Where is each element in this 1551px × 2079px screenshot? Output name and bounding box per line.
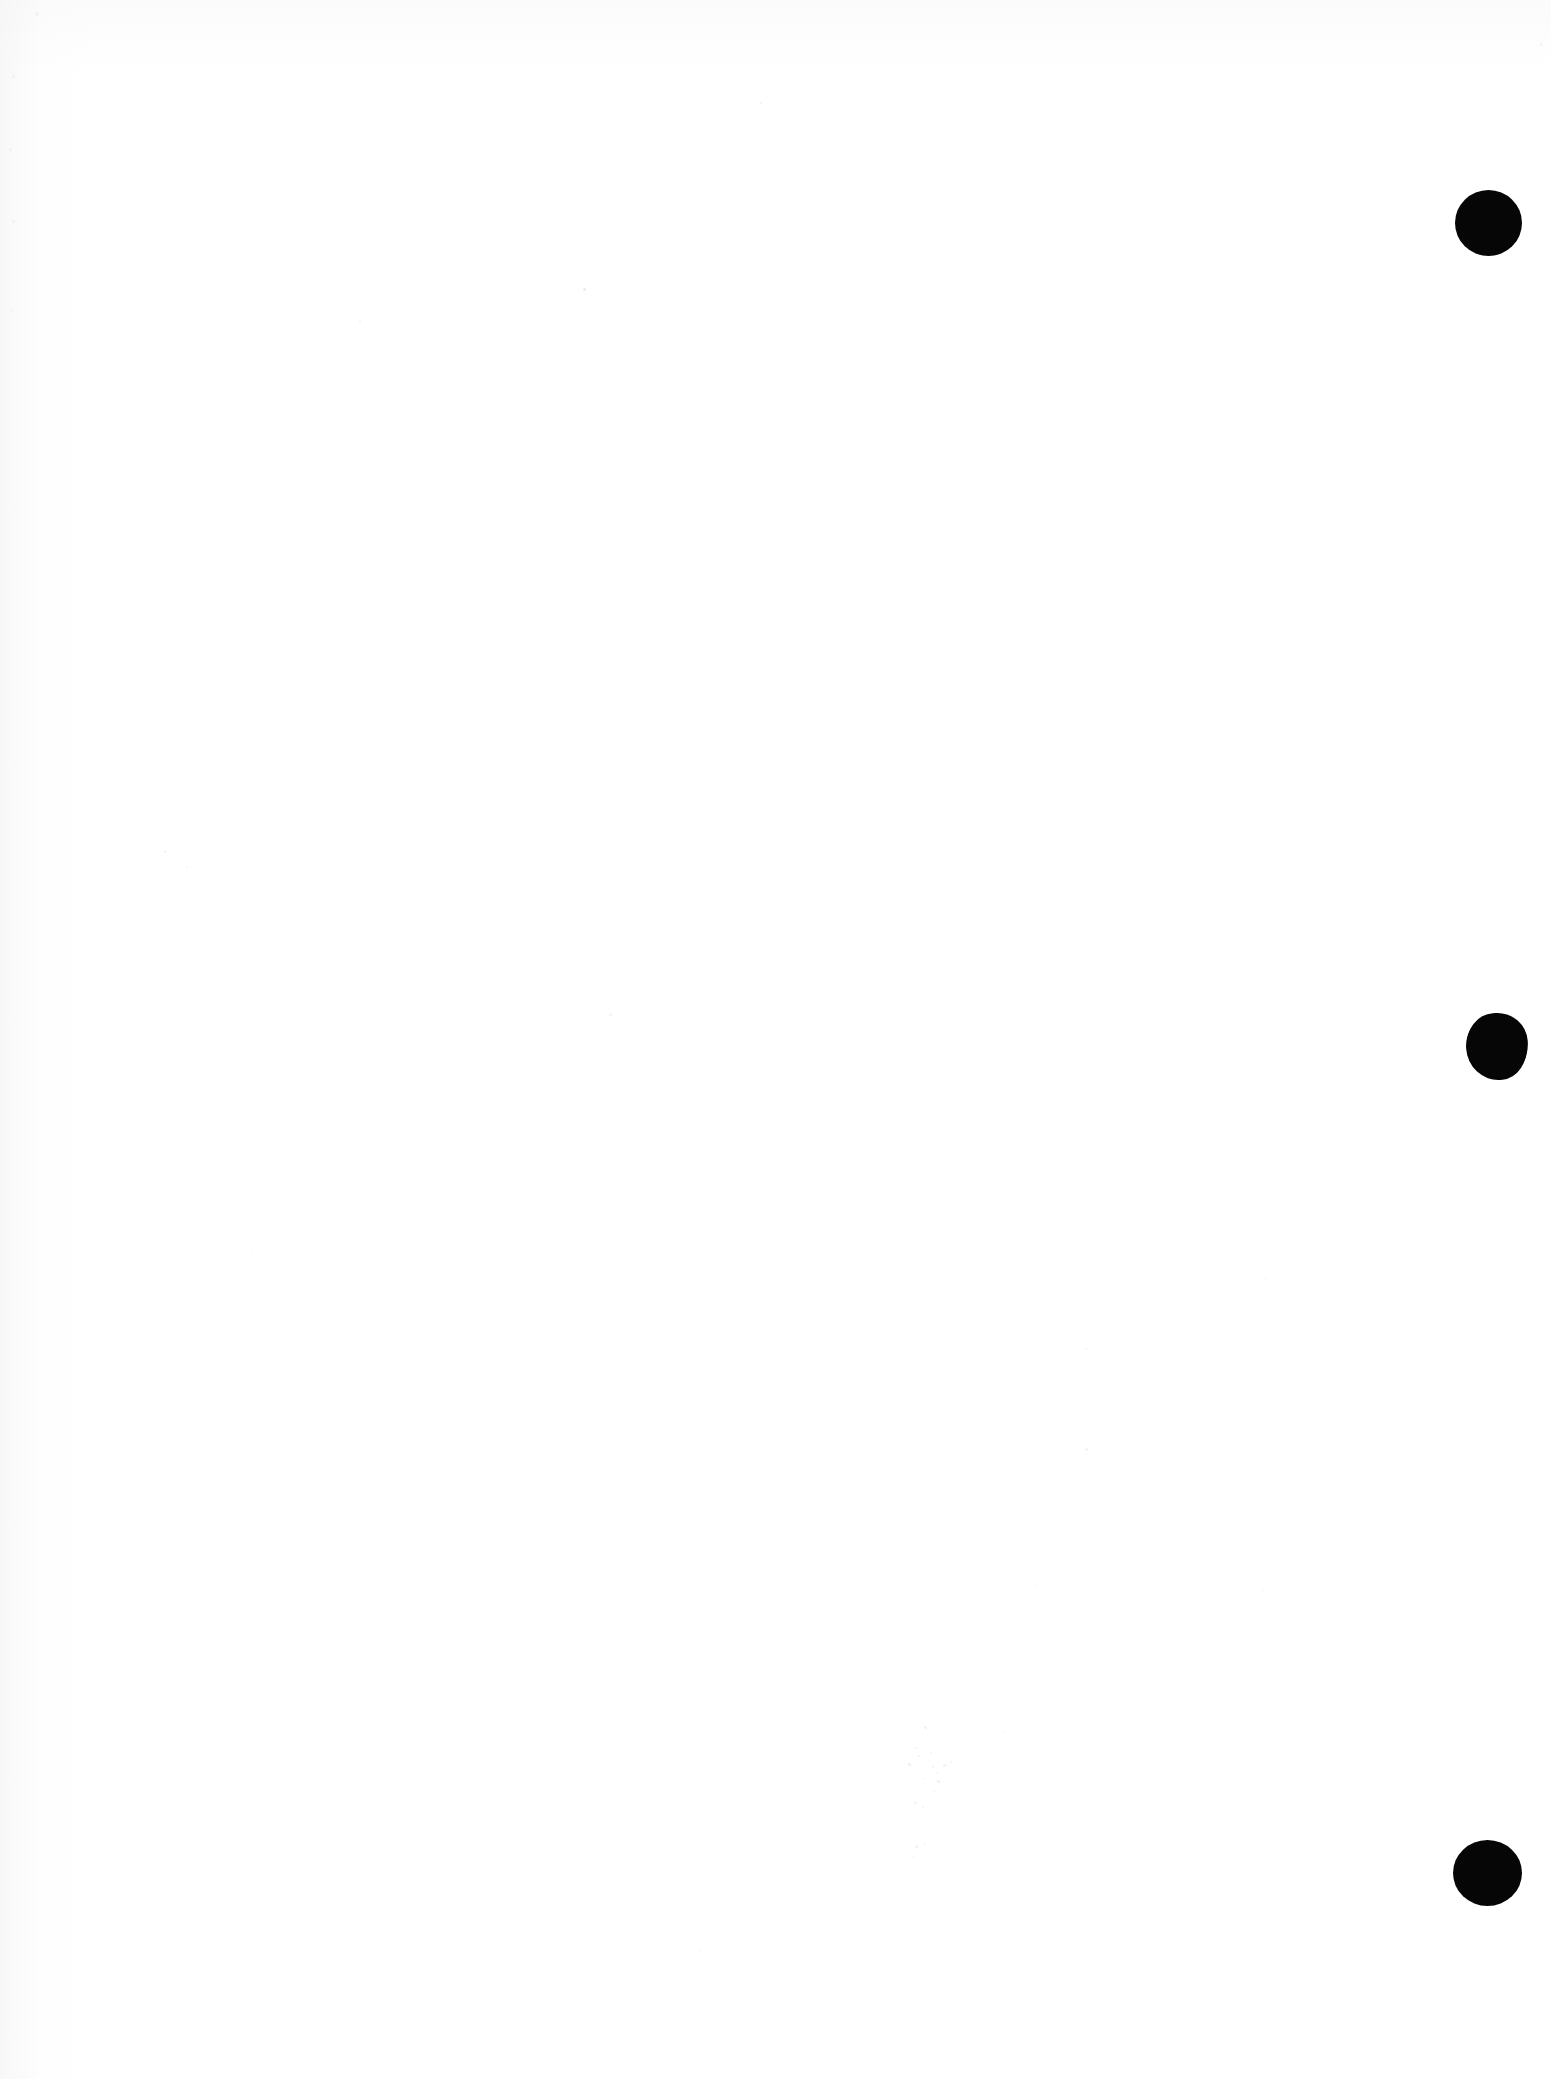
dust-speck <box>932 1766 934 1768</box>
dust-speck <box>35 12 39 16</box>
scanned-page <box>0 0 1551 2079</box>
dust-speck <box>9 148 12 151</box>
dust-speck <box>913 1856 915 1858</box>
dust-speck <box>918 1755 920 1757</box>
registration-mark-top <box>1455 190 1522 256</box>
dust-speck <box>1540 43 1543 46</box>
page-body-text <box>120 120 1320 1920</box>
dust-speck <box>937 1780 940 1783</box>
dust-speck <box>1034 1585 1036 1587</box>
dust-speck <box>936 1772 938 1774</box>
dust-speck <box>924 1843 926 1845</box>
dust-speck <box>1085 1348 1087 1350</box>
dust-speck <box>915 1747 917 1749</box>
dust-speck <box>12 220 15 223</box>
dust-speck <box>924 1778 926 1780</box>
dust-speck <box>924 1726 927 1729</box>
dust-speck <box>1085 1448 1088 1451</box>
dust-speck <box>250 1250 252 1252</box>
dust-speck <box>933 1790 935 1792</box>
dust-speck <box>914 1801 917 1804</box>
dust-speck <box>11 310 13 312</box>
dust-speck <box>700 1950 702 1952</box>
dust-speck <box>583 288 586 291</box>
dust-speck <box>915 1845 918 1848</box>
dust-speck <box>1265 1278 1267 1280</box>
dust-speck <box>760 102 762 104</box>
dust-speck <box>1262 1589 1264 1591</box>
dust-speck <box>943 1764 946 1767</box>
dust-speck <box>609 1013 612 1016</box>
dust-speck <box>922 1806 924 1808</box>
dust-speck <box>950 1761 952 1763</box>
dust-speck <box>12 75 15 78</box>
dust-speck <box>160 1855 162 1857</box>
dust-speck <box>186 866 188 868</box>
dust-speck <box>930 1752 932 1754</box>
dust-speck <box>908 1763 911 1766</box>
dust-speck <box>164 850 167 853</box>
registration-mark-bottom <box>1453 1840 1522 1906</box>
dust-speck <box>359 320 361 322</box>
dust-speck <box>1004 1731 1006 1733</box>
